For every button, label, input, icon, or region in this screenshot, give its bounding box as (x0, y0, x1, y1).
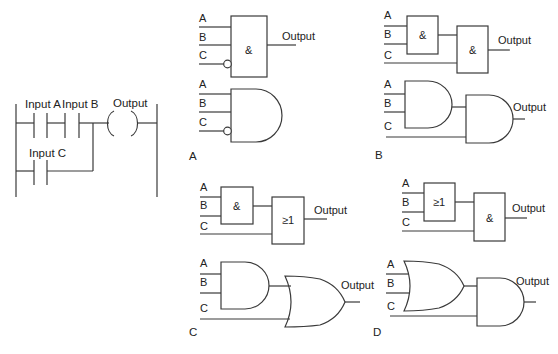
and-symbol: & (245, 44, 253, 56)
input-label-c: C (384, 49, 392, 61)
panel-label-a: A (189, 150, 197, 162)
input-label-c: C (199, 116, 207, 128)
input-label-a: A (200, 181, 208, 193)
and-symbol: & (233, 200, 241, 212)
panel-d: A B C ≥1 & Output A B C Output D (373, 177, 549, 338)
coil-right-arc (131, 111, 138, 136)
panel-label-d: D (373, 326, 381, 338)
output-label: Output (341, 279, 374, 291)
input-label-c: C (200, 220, 208, 232)
output-label: Output (516, 275, 549, 287)
input-label-a: A (384, 9, 392, 21)
input-label-a: A (387, 258, 395, 270)
label-output: Output (113, 97, 148, 109)
input-label-c: C (402, 216, 410, 228)
panel-label-b: B (375, 149, 383, 161)
input-label-a: A (199, 78, 207, 90)
input-label-b: B (402, 196, 409, 208)
panel-b: A B C & & Output A B C Output B (375, 9, 546, 161)
input-label-c: C (387, 300, 395, 312)
panel-c: A B C & ≥1 Output A B C Output C (189, 181, 374, 338)
or-symbol: ≥1 (282, 214, 294, 226)
and-gate-shape-2 (466, 95, 513, 143)
input-label-a: A (199, 12, 207, 24)
and-symbol: & (419, 29, 427, 41)
input-label-b: B (199, 31, 206, 43)
and-gate-shape (221, 262, 269, 309)
input-label-b: B (200, 276, 207, 288)
input-label-a: A (384, 78, 392, 90)
logic-diagram: Input A Input B Input C Output A B C & O… (0, 0, 558, 354)
input-label-c: C (384, 120, 392, 132)
or-gate-shape (285, 276, 345, 327)
input-label-c: C (199, 49, 207, 61)
and-gate-shape (231, 89, 282, 142)
input-label-b: B (384, 28, 391, 40)
output-label: Output (498, 34, 531, 46)
panel-a: A B C & Output A B C A (189, 12, 315, 162)
input-label-c: C (200, 302, 208, 314)
or-gate-shape (404, 261, 464, 311)
input-label-a: A (402, 177, 410, 189)
panel-label-c: C (189, 326, 197, 338)
label-input-c: Input C (29, 147, 66, 159)
and-gate-shape-1 (405, 81, 452, 128)
output-label: Output (512, 202, 545, 214)
inverter-bubble (224, 60, 232, 68)
output-label: Output (282, 30, 315, 42)
output-label: Output (513, 101, 546, 113)
input-label-b: B (384, 97, 391, 109)
ladder-diagram: Input A Input B Input C Output (16, 97, 157, 197)
input-label-b: B (199, 97, 206, 109)
label-input-b: Input B (62, 98, 99, 110)
input-label-b: B (200, 199, 207, 211)
or-symbol: ≥1 (433, 196, 445, 208)
label-input-a: Input A (25, 98, 61, 110)
and-symbol: & (469, 44, 477, 56)
inverter-bubble (224, 127, 232, 135)
input-label-a: A (200, 257, 208, 269)
output-label: Output (314, 204, 347, 216)
input-label-b: B (387, 277, 394, 289)
and-symbol: & (486, 212, 494, 224)
